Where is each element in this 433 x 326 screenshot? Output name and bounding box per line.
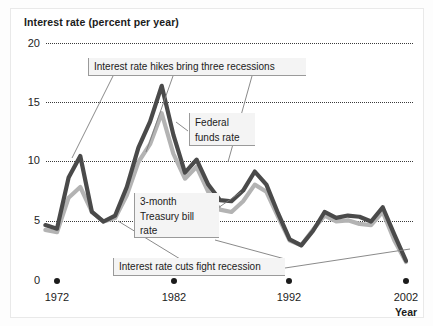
annotation-hikes-text: Interest rate hikes bring three recessio…: [94, 61, 275, 72]
annotation-treasury-bill-line3: rate: [140, 224, 213, 239]
annotation-treasury-bill: 3-month Treasury bill rate: [134, 193, 219, 238]
leader-line-cuts-3: [285, 249, 410, 268]
annotation-federal-funds-line1: Federal: [195, 115, 249, 130]
leader-line-federal-funds: [176, 122, 188, 131]
leader-line-cuts-2: [215, 240, 285, 259]
x-tick-label-1992: 1992: [266, 291, 312, 303]
annotation-cuts-text: Interest rate cuts fight recession: [119, 261, 261, 272]
annotation-treasury-bill-line2: Treasury bill: [140, 210, 213, 225]
annotation-hikes: Interest rate hikes bring three recessio…: [88, 58, 306, 76]
x-tick-label-1972: 1972: [34, 291, 80, 303]
leader-line-hikes-1: [72, 76, 113, 158]
annotation-cuts: Interest rate cuts fight recession: [113, 258, 285, 276]
chart-figure: Interest rate (percent per year) 20 15 1…: [0, 0, 433, 326]
x-axis-label: Year: [383, 306, 429, 318]
x-tick-dot-1972: [54, 278, 60, 284]
annotation-treasury-bill-line1: 3-month: [140, 195, 213, 210]
annotation-federal-funds-line2: funds rate: [195, 130, 249, 145]
x-tick-dot-1992: [286, 278, 292, 284]
x-tick-label-2002: 2002: [383, 291, 429, 303]
leader-line-hikes-2: [146, 76, 173, 152]
x-tick-dot-1982: [171, 278, 177, 284]
x-tick-label-1982: 1982: [151, 291, 197, 303]
x-tick-dot-2002: [403, 278, 409, 284]
leader-line-treasury-bill: [218, 192, 241, 208]
annotation-federal-funds: Federal funds rate: [189, 113, 255, 146]
callout-leader-lines: [0, 0, 433, 326]
